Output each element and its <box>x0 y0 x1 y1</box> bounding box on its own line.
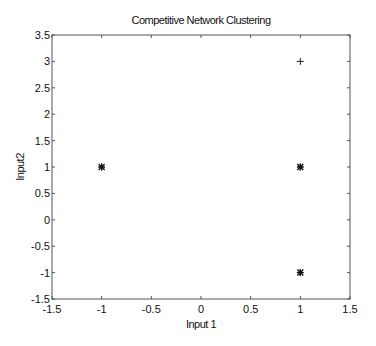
y-tick-label: 1 <box>44 161 50 173</box>
asterisk-marker <box>99 164 105 171</box>
y-tick-label: 3 <box>44 55 50 67</box>
plot-area <box>52 35 350 299</box>
x-tick-label: -0.5 <box>142 303 161 315</box>
x-tick-label: 0 <box>198 303 204 315</box>
y-tick-label: -1.5 <box>31 293 50 305</box>
y-tick-label: 2 <box>44 108 50 120</box>
y-tick-label: -0.5 <box>31 240 50 252</box>
y-tick-label: 0.5 <box>35 187 50 199</box>
x-axis-label: Input 1 <box>186 318 217 330</box>
asterisk-marker <box>297 164 303 171</box>
y-tick-label: 3.5 <box>35 29 50 41</box>
x-tick-label: -1 <box>97 303 107 315</box>
asterisk-marker <box>297 269 303 276</box>
y-tick-label: 1.5 <box>35 135 50 147</box>
y-tick-label: -1 <box>40 267 50 279</box>
x-tick-label: 0.5 <box>243 303 258 315</box>
scatter-chart: Competitive Network Clustering -1.5-1-0.… <box>0 0 376 346</box>
chart-title: Competitive Network Clustering <box>131 14 270 26</box>
y-tick-label: 0 <box>44 214 50 226</box>
y-axis-label: Input2 <box>14 153 26 181</box>
x-tick-label: 1.5 <box>342 303 357 315</box>
x-tick-label: 1 <box>297 303 303 315</box>
y-tick-label: 2.5 <box>35 82 50 94</box>
